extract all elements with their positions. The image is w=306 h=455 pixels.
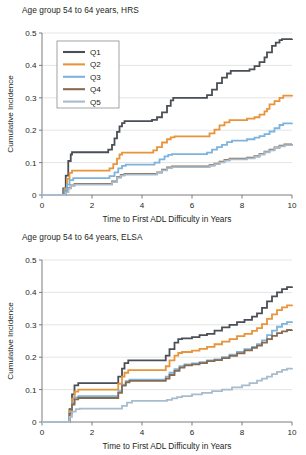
y-tick-label-0.1: 0.1 [25, 159, 37, 168]
legend-label-q1: Q1 [90, 48, 101, 57]
y-axis-label: Cumulative Incidence [6, 75, 15, 153]
x-tick-label-0: 0 [40, 428, 45, 437]
x-tick-label-6: 6 [190, 201, 195, 210]
panel-hrs: Age group 54 to 64 years, HRS 00.10.20.3… [0, 0, 306, 227]
plot-area-hrs: 00.10.20.30.40.50246810Time to First ADL… [0, 0, 306, 227]
x-tick-label-0: 0 [40, 201, 45, 210]
y-tick-label-0.5: 0.5 [25, 256, 37, 265]
x-tick-label-2: 2 [90, 428, 95, 437]
y-tick-label-0.3: 0.3 [25, 321, 37, 330]
x-tick-label-6: 6 [190, 428, 195, 437]
x-tick-label-10: 10 [287, 201, 297, 210]
plot-area-elsa: 00.10.20.30.40.50246810Time to First ADL… [0, 227, 306, 454]
y-tick-label-0.1: 0.1 [25, 386, 37, 395]
panel-elsa: Age group 54 to 64 years, ELSA 00.10.20.… [0, 227, 306, 454]
legend-label-q3: Q3 [90, 73, 101, 82]
x-tick-label-4: 4 [140, 428, 145, 437]
series-line-q2 [42, 305, 292, 422]
y-tick-label-0: 0 [32, 191, 37, 200]
y-tick-label-0: 0 [32, 418, 37, 427]
x-tick-label-8: 8 [240, 428, 245, 437]
x-tick-label-2: 2 [90, 201, 95, 210]
legend-label-q5: Q5 [90, 98, 101, 107]
x-axis-label: Time to First ADL Difficulty in Years [103, 441, 232, 451]
y-tick-label-0.4: 0.4 [25, 288, 37, 297]
x-tick-label-4: 4 [140, 201, 145, 210]
y-axis-label: Cumulative Incidence [6, 302, 15, 380]
y-tick-label-0.2: 0.2 [25, 353, 37, 362]
series-line-q3 [42, 322, 292, 422]
y-tick-label-0.2: 0.2 [25, 126, 37, 135]
y-tick-label-0.4: 0.4 [25, 61, 37, 70]
x-axis-label: Time to First ADL Difficulty in Years [103, 214, 232, 224]
legend-label-q2: Q2 [90, 60, 101, 69]
cumulative-incidence-figure: Age group 54 to 64 years, HRS 00.10.20.3… [0, 0, 306, 455]
chart-svg-elsa: 00.10.20.30.40.50246810Time to First ADL… [0, 227, 306, 454]
chart-svg-hrs: 00.10.20.30.40.50246810Time to First ADL… [0, 0, 306, 227]
x-tick-label-10: 10 [287, 428, 297, 437]
y-tick-label-0.3: 0.3 [25, 94, 37, 103]
y-tick-label-0.5: 0.5 [25, 29, 37, 38]
legend-label-q4: Q4 [90, 85, 101, 94]
x-tick-label-8: 8 [240, 201, 245, 210]
